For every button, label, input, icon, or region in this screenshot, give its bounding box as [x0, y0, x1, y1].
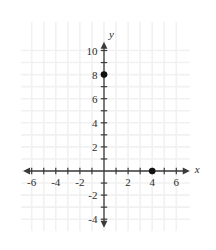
y-tick-label: 4	[92, 117, 98, 129]
y-tick-label: 2	[92, 141, 98, 153]
y-tick-label: -2	[88, 189, 97, 201]
x-tick-label: 4	[149, 176, 155, 188]
x-tick-label: -6	[27, 176, 37, 188]
x-tick-label: -4	[51, 176, 61, 188]
x-tick-label: 2	[125, 176, 131, 188]
plotted-point	[101, 71, 108, 78]
grid-lines	[21, 22, 190, 231]
y-axis-name-label: y	[108, 28, 114, 40]
y-tick-label: 8	[92, 69, 98, 81]
plotted-point	[149, 168, 156, 175]
y-axis-arrow-down	[101, 221, 108, 228]
x-tick-label: 6	[174, 176, 180, 188]
y-tick-label: 6	[92, 93, 98, 105]
coordinate-plane-figure: -6-4-2246-4-2246810 xy	[0, 0, 216, 250]
x-axis-name-label: x	[194, 163, 200, 175]
y-tick-label: -4	[88, 213, 98, 225]
graph-canvas: -6-4-2246-4-2246810 xy	[0, 0, 216, 250]
x-tick-label: -2	[75, 176, 84, 188]
y-axis-arrow-up	[101, 42, 108, 49]
y-tick-label: 10	[87, 45, 99, 57]
x-axis-arrow-right	[183, 168, 190, 175]
x-axis-arrow-left	[23, 168, 30, 175]
